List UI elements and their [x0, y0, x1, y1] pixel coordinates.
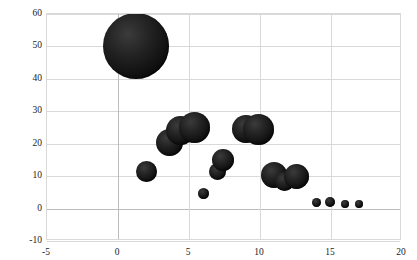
- bubble-marker: [212, 149, 234, 171]
- bubble-marker: [198, 188, 209, 199]
- plot-area: [46, 13, 401, 240]
- y-tick-label: 30: [33, 105, 43, 115]
- x-tick-label: 5: [186, 247, 191, 257]
- bubble-marker: [103, 14, 169, 79]
- y-tick-label: 20: [33, 138, 43, 148]
- y-tick-label: 0: [37, 203, 42, 213]
- x-tick-label: 20: [396, 247, 406, 257]
- bubble-marker: [136, 161, 157, 182]
- y-tick-label: 40: [33, 73, 43, 83]
- y-tick-label: 60: [33, 8, 43, 18]
- y-tick-label: -10: [29, 235, 42, 245]
- bubble-marker: [284, 164, 309, 189]
- bubble-marker: [325, 197, 335, 207]
- y-tick-label: 10: [33, 170, 43, 180]
- bubble-marker: [243, 114, 274, 145]
- x-tick-label: 15: [325, 247, 335, 257]
- bubble-marker: [341, 200, 349, 208]
- x-tick-label: 10: [254, 247, 264, 257]
- x-tick-label: -5: [42, 247, 50, 257]
- data-series-bubbles: [47, 14, 400, 239]
- y-tick-label: 50: [33, 40, 43, 50]
- bubble-chart: -100102030405060 -505101520: [0, 0, 417, 260]
- bubble-marker: [179, 112, 210, 143]
- bubble-marker: [355, 200, 363, 208]
- x-tick-label: 0: [115, 247, 120, 257]
- bubble-marker: [312, 198, 321, 207]
- gridline-y--10: [47, 241, 400, 242]
